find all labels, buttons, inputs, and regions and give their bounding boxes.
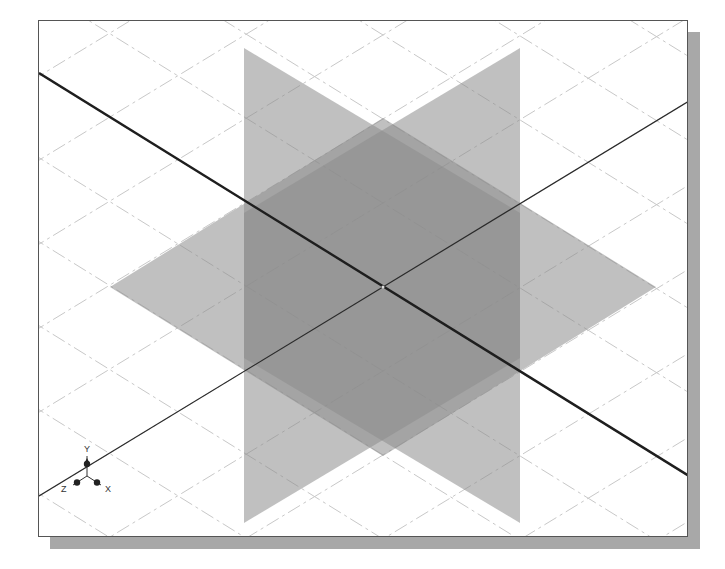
graphics-viewport[interactable]: Y Z X — [38, 20, 688, 537]
scene-canvas[interactable]: Y Z X — [39, 21, 687, 536]
z-label: Z — [61, 484, 67, 494]
x-label: X — [105, 484, 111, 494]
coordinate-triad: Y Z X — [61, 444, 111, 494]
origin-point — [382, 286, 385, 289]
y-label: Y — [84, 444, 90, 454]
grid-line — [39, 21, 687, 23]
z-axis-arrow-icon — [74, 479, 80, 485]
grid-line — [39, 21, 687, 107]
x-axis-arrow-icon — [94, 479, 100, 485]
